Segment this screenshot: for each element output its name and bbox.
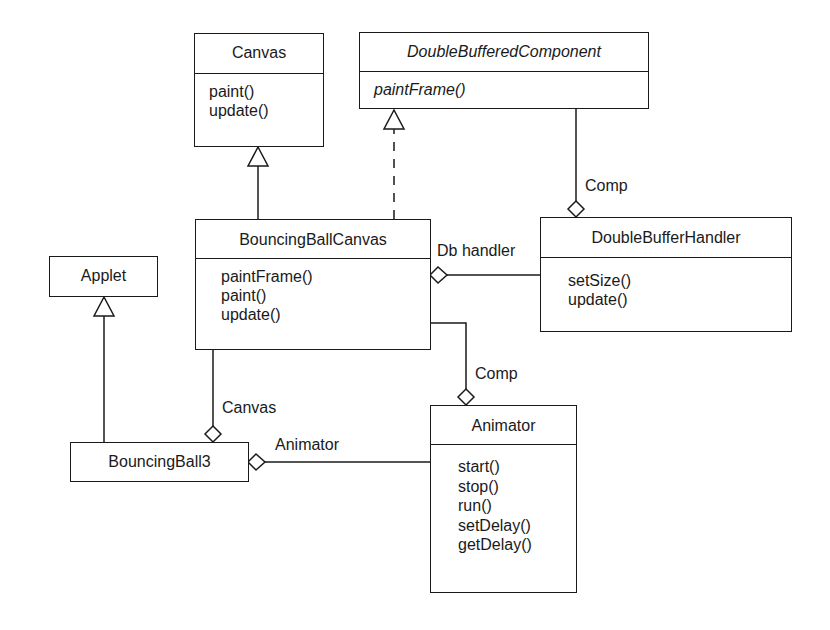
class-operations: start() stop() run() setDelay() getDelay… — [431, 444, 576, 592]
class-name: BouncingBall3 — [71, 443, 248, 470]
role-label-comp-top: Comp — [585, 178, 628, 194]
role-label-animator: Animator — [275, 437, 339, 453]
generalization-arrow-icon — [94, 297, 114, 316]
aggregation-diamond-icon — [430, 267, 447, 283]
class-operations: setSize() update() — [541, 257, 791, 330]
comp-association-line-bottom — [430, 323, 466, 389]
role-label-canvas: Canvas — [222, 400, 276, 416]
generalization-arrow-icon — [248, 147, 268, 166]
class-bouncing-ball-canvas: BouncingBallCanvas paintFrame() paint() … — [195, 219, 431, 350]
operation: update() — [221, 305, 430, 324]
operation: setDelay() — [458, 516, 576, 536]
operation: paint() — [221, 286, 430, 305]
class-name: DoubleBufferedComponent — [360, 33, 648, 71]
realization-arrow-icon — [384, 110, 404, 129]
operation: getDelay() — [458, 535, 576, 555]
aggregation-diamond-icon — [458, 389, 474, 405]
aggregation-diamond-icon — [248, 454, 265, 470]
role-label-db-handler: Db handler — [437, 243, 515, 259]
operation: start() — [458, 457, 576, 477]
class-operations: paintFrame() — [360, 71, 648, 108]
class-bouncing-ball3: BouncingBall3 — [70, 442, 249, 482]
class-name: BouncingBallCanvas — [196, 220, 430, 258]
aggregation-diamond-icon — [205, 426, 221, 442]
operation: paintFrame() — [221, 267, 430, 286]
class-name: Applet — [50, 257, 157, 284]
operation: paintFrame() — [374, 80, 648, 99]
operation: run() — [458, 496, 576, 516]
class-double-buffered-component: DoubleBufferedComponent paintFrame() — [359, 32, 649, 109]
aggregation-diamond-icon — [568, 201, 584, 217]
class-name: Animator — [431, 406, 576, 444]
class-double-buffer-handler: DoubleBufferHandler setSize() update() — [540, 217, 792, 332]
operation: setSize() — [568, 271, 791, 290]
class-animator: Animator start() stop() run() setDelay()… — [430, 405, 577, 593]
class-operations: paintFrame() paint() update() — [196, 258, 430, 348]
class-operations: paint() update() — [195, 73, 323, 145]
class-applet: Applet — [49, 256, 158, 297]
uml-class-diagram: Canvas paint() update() DoubleBufferedCo… — [0, 0, 830, 630]
operation: paint() — [209, 82, 323, 101]
operation: update() — [568, 290, 791, 309]
role-label-comp-bottom: Comp — [475, 366, 518, 382]
operation: update() — [209, 101, 323, 120]
class-canvas: Canvas paint() update() — [194, 33, 324, 147]
class-name: Canvas — [195, 34, 323, 73]
class-name: DoubleBufferHandler — [541, 218, 791, 257]
operation: stop() — [458, 477, 576, 497]
